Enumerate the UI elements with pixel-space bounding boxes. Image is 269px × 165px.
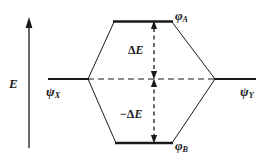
line-psix-to-phib — [88, 79, 116, 143]
delta-e-lower-arrowhead-top — [151, 79, 157, 88]
delta-upper-symbol: Δ — [128, 43, 136, 57]
delta-e-lower-label: −ΔE — [120, 108, 142, 120]
energy-axis-arrowhead — [26, 17, 33, 28]
line-psiy-to-phia — [172, 22, 215, 79]
energy-axis-arrow — [26, 17, 33, 148]
psi-x-symbol: ψ — [46, 84, 55, 99]
line-psiy-to-phib — [172, 79, 215, 143]
mo-correlation-diagram: E ψX ψY φA φB ΔE −ΔE — [0, 0, 269, 165]
psi-x-subscript: X — [55, 91, 61, 100]
delta-e-upper-arrowhead-bottom — [151, 71, 157, 80]
delta-e-upper-label: ΔE — [128, 44, 144, 56]
minus-sign: − — [120, 107, 127, 121]
level-label-psi-y: ψY — [240, 85, 254, 98]
phi-b-symbol: φ — [175, 138, 183, 153]
line-psix-to-phia — [88, 22, 114, 79]
delta-e-lower-arrow — [151, 79, 157, 144]
delta-e-upper-arrow — [151, 21, 157, 80]
energy-upper-symbol: E — [136, 43, 144, 57]
energy-lower-symbol: E — [134, 107, 142, 121]
phi-a-symbol: φ — [175, 8, 183, 23]
psi-y-subscript: Y — [249, 91, 254, 100]
psi-y-symbol: ψ — [240, 84, 249, 99]
correlation-lines — [88, 22, 215, 143]
level-label-psi-x: ψX — [46, 85, 60, 98]
phi-a-subscript: A — [183, 15, 189, 24]
energy-axis-label: E — [9, 77, 18, 90]
level-label-phi-a: φA — [175, 9, 188, 22]
diagram-canvas — [0, 0, 269, 165]
level-label-phi-b: φB — [175, 139, 188, 152]
phi-b-subscript: B — [183, 145, 189, 154]
